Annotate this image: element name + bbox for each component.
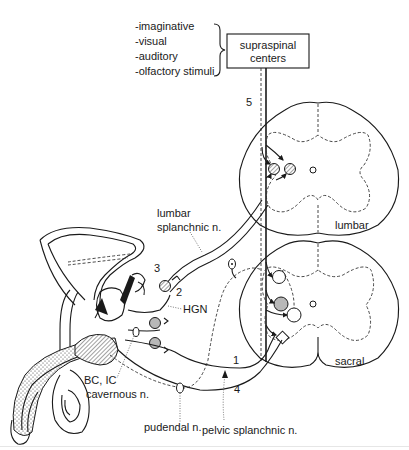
supraspinal-label-line1: supraspinal [240,39,296,51]
pelvic-splanchnic-nerve-label: pelvic splanchnic n. [202,424,297,436]
bottom-divider [0,446,409,447]
sacral-label: sacral [335,355,364,367]
neural-pathway-diagram: -imaginative -visual -auditory -olfactor… [0,0,409,450]
pathway-number-2: 2 [176,286,182,298]
lumbar-spinal-cord: lumbar [239,102,398,235]
lumbar-label: lumbar [335,219,369,231]
sacral-spinal-cord: sacral [239,241,398,367]
supraspinal-centers-box: supraspinal centers [227,34,309,68]
lumbar-splanchnic-label-line1: lumbar [157,207,191,219]
stimulus-auditory: -auditory [135,50,178,62]
stimulus-visual: -visual [135,35,167,47]
supraspinal-label-line2: centers [250,52,287,64]
cavernous-nerve-label: cavernous n. [86,388,149,400]
bc-ic-label: BC, IC [84,374,116,386]
descending-pathway-5: 5 [246,68,266,362]
stimulus-olfactory: -olfactory stimuli [135,65,214,77]
stimuli-list: -imaginative -visual -auditory -olfactor… [135,20,214,77]
stimulus-imaginative: -imaginative [135,20,194,32]
pathway-number-3: 3 [154,262,160,274]
hgn-label: HGN [183,303,208,315]
pathway-number-5: 5 [246,96,252,108]
pathway-number-1: 1 [233,354,239,366]
pudendal-nerve-label: pudendal n. [144,421,202,433]
pathway-number-4: 4 [234,383,240,395]
lumbar-splanchnic-label-line2: splanchnic n. [157,221,221,233]
brace-icon [214,24,225,76]
